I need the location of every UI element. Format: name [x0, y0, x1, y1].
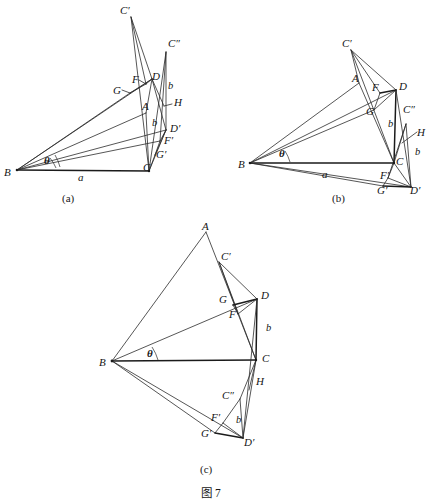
panel-a-caption: (a) [62, 192, 74, 204]
panel-a-segment-CprimeD [131, 17, 152, 79]
panel-a-label-D: D [152, 71, 160, 82]
panel-c-segment-CprimeF [219, 262, 238, 314]
panel-b-segment-BD [250, 90, 396, 163]
panel-b-label-b-upper: b [388, 119, 393, 130]
panel-b-label-G-prime: G′ [377, 185, 387, 196]
panel-b-label-F: F [372, 82, 379, 93]
panel-c-label-theta: θ [147, 348, 153, 359]
panel-b-label-C-prime: C′ [342, 38, 352, 49]
panel-b-label-G: G [366, 106, 374, 117]
figure-caption: 图7 [201, 484, 221, 500]
panel-b-label-b-lower: b [415, 147, 420, 158]
panel-c-label-C: C [262, 353, 269, 364]
panel-a-label-C-dprime: C″ [168, 38, 180, 49]
panel-b-label-C-dprime: C″ [403, 104, 415, 115]
panel-c-vertex-B-dot [111, 360, 114, 363]
panel-b-label-A: A [352, 73, 359, 84]
panel-c-segment-BA [112, 232, 206, 361]
panel-c-segment-CdprimeC [240, 360, 256, 399]
panel-b-theta-arc [285, 151, 290, 162]
panel-c-label-G-prime: G′ [201, 428, 211, 439]
panel-c-label-F-prime: F′ [211, 412, 220, 423]
panel-b-label-D-prime: D′ [410, 185, 420, 196]
panel-c-geometry [111, 232, 258, 438]
panel-c-label-b-lower: b [236, 415, 241, 426]
figure-caption-label: 图 [201, 487, 212, 499]
panel-c-label-D-prime: D′ [244, 437, 254, 448]
panel-c-label-H: H [256, 376, 264, 387]
panel-a-label-b-upper: b [168, 81, 173, 92]
panel-a-geometry [16, 17, 172, 172]
panel-a-label-B: B [4, 167, 11, 178]
panel-c-segment-BGprime [112, 361, 215, 433]
panel-a-vertex-B-dot [16, 169, 19, 172]
panel-a-segment-H-leader [164, 104, 172, 106]
panel-a-label-A: A [142, 101, 149, 112]
figure-root: C′ C″ D F G b H A b D′ F′ G′ B a θ C (a)… [0, 0, 429, 501]
panel-a-label-theta: θ [44, 155, 50, 166]
panel-b-segment-BGprime [250, 163, 383, 186]
panel-b-segment-DC [394, 90, 396, 163]
panel-b-label-B: B [238, 159, 245, 170]
panel-c-label-C-prime: C′ [221, 251, 231, 262]
panel-c-label-G: G [219, 294, 227, 305]
panel-b-vertex-B-dot [249, 162, 252, 165]
panel-a-label-D-prime: D′ [170, 123, 180, 134]
panel-c-label-b-upper: b [266, 323, 271, 334]
panel-a-theta-arc-2 [55, 155, 60, 167]
panel-a-label-b-lower: b [152, 118, 157, 129]
panel-a-label-C: C [143, 162, 150, 173]
panel-c-segment-BC [112, 360, 256, 361]
panel-c-label-A: A [202, 221, 209, 232]
panel-a-segment-BA [17, 113, 146, 170]
panel-a-label-C-prime: C′ [120, 5, 130, 16]
panel-c-label-C-dprime: C″ [222, 390, 234, 401]
panel-c-segment-FprimeGprime [215, 423, 223, 433]
panel-b-label-C: C [396, 156, 403, 167]
panel-c-label-B: B [99, 357, 106, 368]
panel-a-label-H: H [174, 97, 182, 108]
panel-a-label-G-prime: G′ [156, 149, 166, 160]
panel-b-segment-CdprimeFprime [388, 124, 406, 178]
panel-b-label-a: a [322, 169, 328, 180]
panel-a-label-F-prime: F′ [164, 135, 173, 146]
panel-b-caption: (b) [332, 192, 345, 204]
panel-a-segment-CprimeC [131, 17, 149, 171]
panel-a-label-F: F [132, 74, 139, 85]
panel-c-caption: (c) [200, 463, 212, 475]
panel-a-segment-FG [130, 84, 146, 93]
panel-c-vertex-C-dot [255, 359, 257, 361]
panel-c-label-D: D [261, 290, 269, 301]
panel-c-label-F: F [229, 309, 236, 320]
panel-b-vertex-C-dot [393, 162, 395, 164]
panel-b-label-D: D [399, 81, 407, 92]
figure-caption-number: 7 [215, 487, 221, 499]
panel-a-label-a: a [78, 172, 84, 183]
panel-b-H-leader [402, 132, 417, 143]
panel-b-label-F-prime: F′ [380, 170, 389, 181]
panel-b-label-H: H [417, 127, 425, 138]
panel-b-segment-CdprimeDprime [406, 124, 411, 187]
figure-geometry-svg [0, 0, 429, 501]
panel-b-label-theta: θ [279, 148, 285, 159]
panel-a-label-G: G [113, 85, 121, 96]
panel-a-G-leader [122, 90, 130, 93]
